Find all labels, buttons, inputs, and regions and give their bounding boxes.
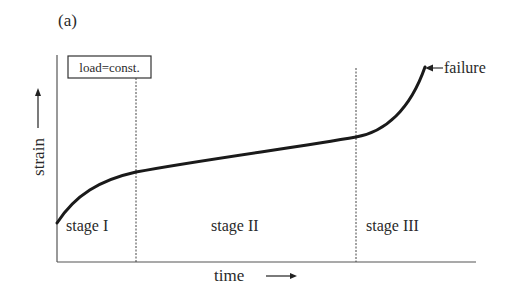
y-axis-label: strain bbox=[29, 138, 48, 176]
stage-1-label: stage I bbox=[66, 217, 108, 235]
stage-3-label: stage III bbox=[366, 217, 419, 235]
failure-arrow-icon bbox=[425, 65, 433, 72]
stage-2-label: stage II bbox=[211, 217, 259, 235]
creep-curve bbox=[57, 67, 425, 223]
creep-curve-diagram: (a) load=const. failure stage I stage II… bbox=[0, 0, 528, 301]
x-arrow-icon bbox=[290, 273, 297, 279]
x-axis-label: time bbox=[214, 266, 244, 285]
condition-label: load=const. bbox=[79, 60, 139, 75]
y-arrow-icon bbox=[35, 88, 41, 96]
panel-label: (a) bbox=[58, 11, 77, 30]
failure-label: failure bbox=[444, 59, 486, 76]
